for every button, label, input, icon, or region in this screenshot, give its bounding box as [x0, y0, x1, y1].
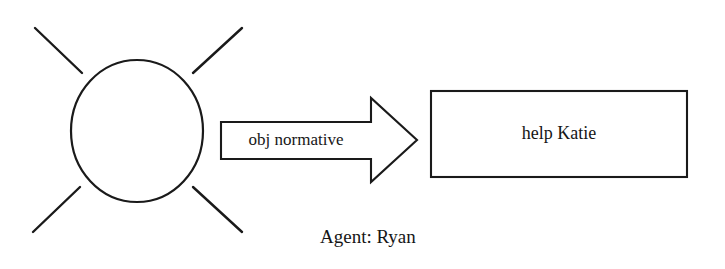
ray-top-right-icon: [193, 28, 242, 73]
ray-top-left-icon: [35, 28, 82, 73]
diagram-canvas: obj normative help Katie Agent: Ryan: [0, 0, 725, 269]
diagram-svg: obj normative help Katie Agent: Ryan: [0, 0, 725, 269]
target-box-label: help Katie: [522, 123, 596, 143]
relation-arrow-label: obj normative: [249, 130, 344, 149]
agent-ellipse-node[interactable]: [71, 60, 203, 202]
ray-bottom-right-icon: [193, 187, 242, 232]
ray-bottom-left-icon: [33, 187, 80, 232]
agent-caption-label: Agent: Ryan: [320, 226, 416, 247]
